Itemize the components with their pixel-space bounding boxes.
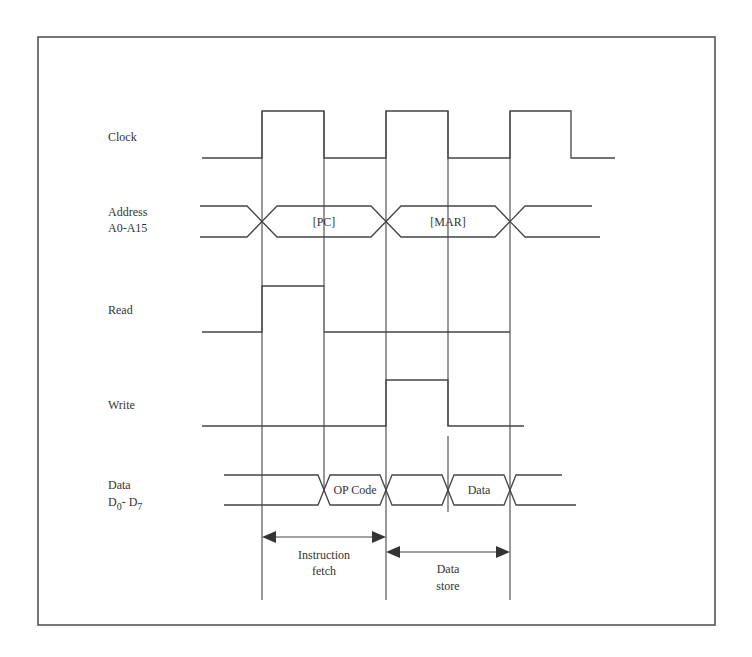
- data-value-opcode: OP Code: [333, 483, 376, 497]
- write-waveform: [202, 380, 524, 426]
- data-range-sub7: 7: [137, 501, 142, 512]
- data-label: Data: [108, 478, 131, 492]
- address-range-label: A0-A15: [108, 221, 147, 235]
- read-label: Read: [108, 303, 133, 317]
- data-bus-waveform: [224, 475, 576, 505]
- instruction-fetch-label-line2: fetch: [312, 564, 336, 578]
- data-range-sep: - D: [122, 495, 138, 509]
- data-value-data: Data: [468, 483, 491, 497]
- arrowhead-right-icon: [496, 546, 510, 558]
- timing-diagram: Clock Address A0-A15 Read Write Data D0-…: [0, 0, 752, 657]
- data-range-d0: D: [108, 495, 117, 509]
- read-waveform: [202, 286, 510, 332]
- address-bus-waveform: [200, 206, 600, 237]
- vertical-guides: [262, 111, 510, 600]
- address-value-pc: [PC]: [313, 215, 336, 229]
- data-range-label: D0- D7: [108, 495, 142, 512]
- write-label: Write: [108, 398, 135, 412]
- data-store-arrow: [386, 546, 510, 558]
- address-value-mar: [MAR]: [430, 215, 465, 229]
- address-label: Address: [108, 205, 148, 219]
- arrowhead-right-icon: [372, 531, 386, 543]
- data-store-label-line1: Data: [437, 562, 460, 576]
- instruction-fetch-arrow: [262, 531, 386, 543]
- arrowhead-left-icon: [262, 531, 276, 543]
- clock-waveform: [202, 111, 615, 158]
- arrowhead-left-icon: [386, 546, 400, 558]
- data-store-label-line2: store: [436, 579, 459, 593]
- clock-label: Clock: [108, 130, 137, 144]
- instruction-fetch-label-line1: Instruction: [298, 548, 350, 562]
